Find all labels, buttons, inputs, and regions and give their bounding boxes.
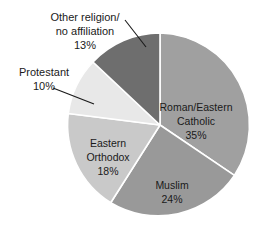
- label-catholic-value: 35%: [185, 129, 206, 141]
- label-protestant-value: 10%: [33, 80, 55, 92]
- label-orthodox-line1: Eastern: [90, 137, 126, 149]
- label-other-line2: no affiliation: [56, 25, 115, 37]
- label-orthodox-line2: Orthodox: [86, 151, 130, 163]
- label-protestant-line1: Protestant: [19, 66, 69, 78]
- label-other-value: 13%: [74, 39, 96, 51]
- slice-label-other-religion: Other religion/ no affiliation 13%: [50, 11, 120, 51]
- pie-chart-figure: Roman/Eastern Catholic 35% Muslim 24% Ea…: [0, 0, 268, 230]
- label-catholic-line2: Catholic: [177, 115, 215, 127]
- slice-label-protestant: Protestant 10%: [19, 66, 69, 92]
- label-orthodox-value: 18%: [97, 165, 118, 177]
- label-muslim-line1: Muslim: [155, 179, 189, 191]
- pie-chart-canvas: Roman/Eastern Catholic 35% Muslim 24% Ea…: [0, 0, 268, 230]
- label-catholic-line1: Roman/Eastern: [160, 101, 233, 113]
- label-other-line1: Other religion/: [50, 11, 120, 23]
- label-muslim-value: 24%: [161, 193, 182, 205]
